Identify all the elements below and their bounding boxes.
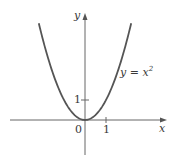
- equation-annotation: y = x2: [120, 66, 153, 78]
- y-tick-label-1: 1: [74, 94, 81, 105]
- origin-label: 0: [75, 124, 82, 135]
- y-axis-label: y: [74, 10, 80, 21]
- equation-exponent: 2: [149, 65, 153, 73]
- x-axis-label: x: [159, 123, 165, 134]
- x-tick-label-1: 1: [103, 124, 110, 135]
- equation-text: y = x: [120, 66, 149, 79]
- y-axis-arrow-icon: [83, 13, 88, 20]
- parabola-plot: [0, 0, 173, 160]
